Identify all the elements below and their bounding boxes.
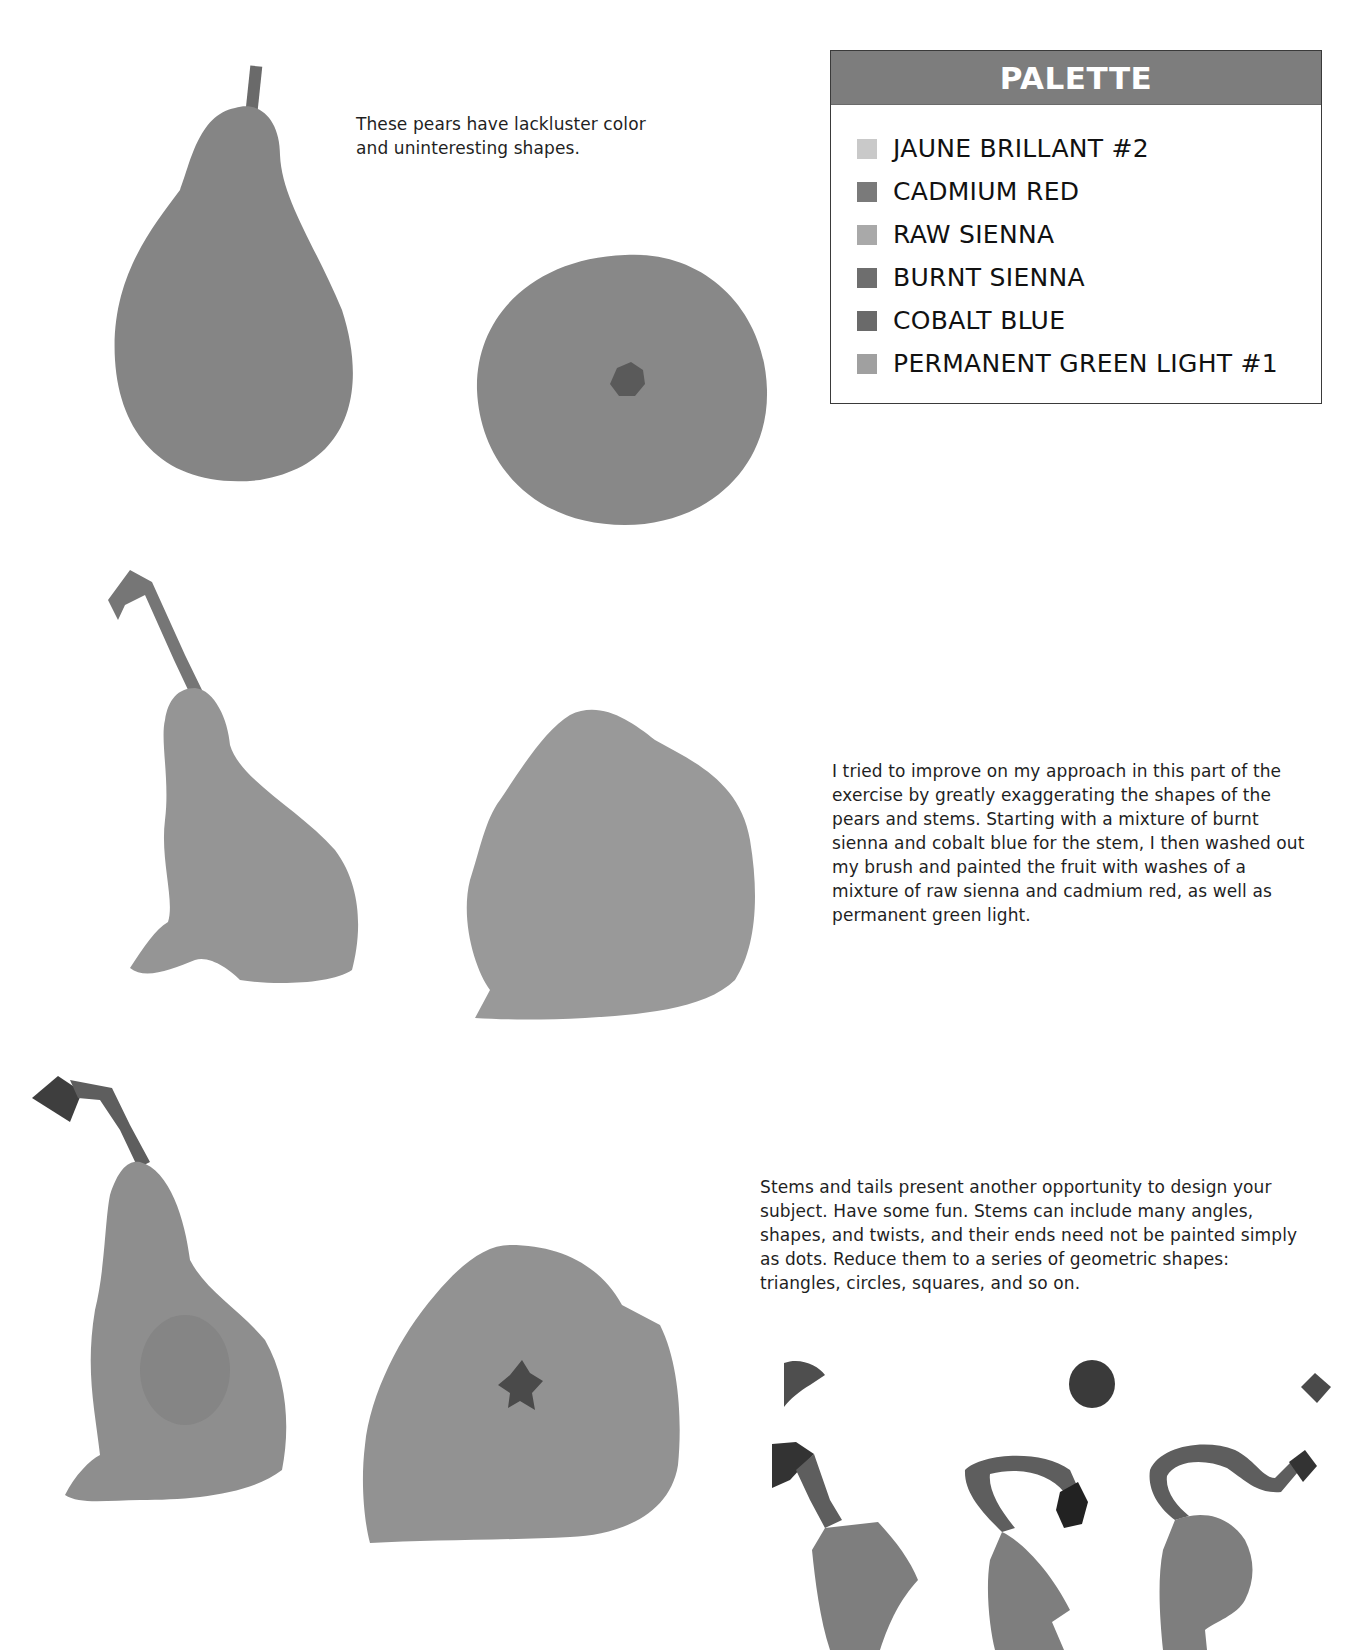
plain-pear-stem [246, 65, 263, 110]
caption-exaggerated-pears: I tried to improve on my approach in thi… [832, 759, 1312, 927]
color-swatch-icon [857, 311, 877, 331]
palette-item-label: BURNT SIENNA [893, 263, 1085, 292]
color-swatch-icon [857, 139, 877, 159]
exaggerated-pear-body [130, 688, 358, 983]
stem-end-triangle-study [770, 1355, 840, 1415]
exaggerated-pear-stem [108, 570, 202, 694]
color-swatch-icon [857, 354, 877, 374]
palette-item-cadmium-red: CADMIUM RED [857, 170, 1321, 213]
developed-pear-side-illustration [20, 1070, 350, 1510]
stem-study-arc-end [960, 1440, 1120, 1651]
caption-lackluster-pears: These pears have lackluster color and un… [356, 112, 676, 160]
plain-pear-body [115, 106, 353, 481]
stem-end-circle-study [1064, 1355, 1124, 1415]
palette-list: JAUNE BRILLANT #2 CADMIUM RED RAW SIENNA… [831, 105, 1321, 385]
caption-stems-and-tails: Stems and tails present another opportun… [760, 1175, 1300, 1295]
stem-study-arc-tip [1056, 1482, 1088, 1528]
developed-pear-bottom-illustration [360, 1245, 700, 1545]
palette-item-burnt-sienna: BURNT SIENNA [857, 256, 1321, 299]
stem-study-twist-fruit [1160, 1515, 1253, 1650]
exaggerated-pear-side-illustration [90, 560, 420, 990]
stem-study-triangle-fruit [812, 1522, 918, 1650]
color-swatch-icon [857, 268, 877, 288]
plain-pear-bottom-illustration [475, 250, 775, 530]
color-swatch-icon [857, 225, 877, 245]
palette-item-label: JAUNE BRILLANT #2 [893, 134, 1149, 163]
palette-item-label: RAW SIENNA [893, 220, 1054, 249]
plain-pear-side-illustration [110, 60, 370, 500]
exaggerated-pear-bottom-illustration [455, 700, 785, 1030]
palette-title: PALETTE [1000, 60, 1152, 96]
palette-item-label: CADMIUM RED [893, 177, 1079, 206]
palette-item-label: COBALT BLUE [893, 306, 1065, 335]
developed-pear-shadow [140, 1315, 230, 1425]
stem-study-twist-end [1145, 1430, 1345, 1651]
palette-header: PALETTE [831, 51, 1321, 105]
stem-study-twist-stem [1150, 1444, 1303, 1520]
stem-end-square-study [1295, 1365, 1345, 1415]
color-swatch-icon [857, 182, 877, 202]
palette-item-cobalt-blue: COBALT BLUE [857, 299, 1321, 342]
stem-study-triangle-end [770, 1440, 930, 1651]
palette-item-permanent-green-light: PERMANENT GREEN LIGHT #1 [857, 342, 1321, 385]
palette-item-raw-sienna: RAW SIENNA [857, 213, 1321, 256]
developed-pear-stem-shaft [70, 1080, 150, 1168]
exaggerated-pear-bottom-body [467, 710, 755, 1020]
stem-study-triangle-stem [796, 1454, 842, 1528]
palette-item-jaune-brillant: JAUNE BRILLANT #2 [857, 127, 1321, 170]
stem-study-arc-fruit [988, 1532, 1070, 1650]
palette-box: PALETTE JAUNE BRILLANT #2 CADMIUM RED RA… [830, 50, 1322, 404]
palette-item-label: PERMANENT GREEN LIGHT #1 [893, 349, 1278, 378]
